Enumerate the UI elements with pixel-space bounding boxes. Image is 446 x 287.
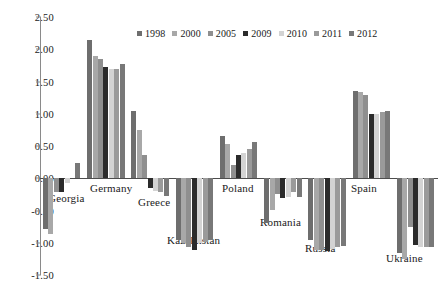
bar-Kazakhstan-2009 — [192, 178, 197, 250]
bar-Germany-2005 — [98, 59, 103, 178]
bar-Greece-2009 — [148, 178, 153, 188]
bar-Greece-2005 — [142, 155, 147, 178]
bar-Spain-2000 — [358, 92, 363, 178]
bar-Kazakhstan-1998 — [176, 178, 181, 240]
bar-Germany-2009 — [103, 67, 108, 178]
bar-Romania-2000 — [270, 178, 275, 210]
bar-Greece-1998 — [131, 111, 136, 179]
bar-Poland-2000 — [225, 144, 230, 178]
bar-Germany-2011 — [114, 69, 119, 179]
category-label-germany: Germany — [90, 182, 132, 194]
bar-Georgia-2009 — [59, 178, 64, 192]
bar-Germany-1998 — [87, 40, 92, 179]
bar-Russia-2009 — [325, 178, 330, 251]
bar-Ukraine-1998 — [397, 178, 402, 253]
bar-Poland-2012 — [252, 142, 257, 178]
bar-Ukraine-2011 — [424, 178, 429, 246]
bar-Russia-2000 — [314, 178, 319, 250]
bar-Spain-2005 — [363, 95, 368, 178]
bar-Romania-2011 — [291, 178, 296, 192]
category-label-greece: Greece — [138, 196, 170, 208]
bar-Romania-2010 — [286, 178, 291, 197]
bar-Poland-2011 — [247, 149, 252, 179]
bar-Greece-2011 — [158, 178, 163, 192]
bar-Poland-2009 — [236, 155, 241, 178]
bar-Poland-2005 — [231, 165, 236, 179]
bar-Poland-1998 — [220, 136, 225, 178]
bar-Georgia-2012 — [75, 163, 80, 178]
bar-Ukraine-2009 — [413, 178, 418, 245]
bar-Romania-2012 — [297, 178, 302, 197]
category-label-poland: Poland — [222, 182, 254, 194]
bar-Kazakhstan-2005 — [186, 178, 191, 247]
bar-Russia-2012 — [341, 178, 346, 246]
bar-Ukraine-2000 — [402, 178, 407, 259]
bar-Greece-2010 — [153, 178, 158, 191]
category-label-spain: Spain — [351, 182, 377, 194]
bar-Russia-2010 — [330, 178, 335, 249]
bar-Spain-2011 — [380, 112, 385, 178]
bar-Kazakhstan-2011 — [203, 178, 208, 242]
bar-Georgia-1998 — [43, 178, 48, 229]
bar-Ukraine-2010 — [418, 178, 423, 246]
bar-Russia-2005 — [319, 178, 324, 250]
bar-Spain-2012 — [385, 111, 390, 178]
bar-Ukraine-2012 — [429, 178, 434, 247]
bar-chart: 2.502.001.501.000.500.00-0.50-1.00-1.50 … — [0, 0, 446, 287]
bar-Kazakhstan-2010 — [197, 178, 202, 243]
bar-Germany-2010 — [109, 69, 114, 179]
bar-Germany-2012 — [120, 64, 125, 178]
bar-Georgia-2000 — [48, 178, 53, 234]
bar-Spain-2009 — [369, 114, 374, 178]
bar-Poland-2010 — [241, 153, 246, 178]
bar-Georgia-2010 — [65, 178, 70, 183]
bar-Romania-2009 — [280, 178, 285, 198]
bar-Russia-1998 — [308, 178, 313, 240]
bar-Georgia-2005 — [54, 178, 59, 192]
bar-Kazakhstan-2012 — [208, 178, 213, 240]
bar-Spain-2010 — [374, 114, 379, 179]
category-label-georgia: Georgia — [48, 192, 85, 204]
bar-Greece-2000 — [137, 130, 142, 178]
bar-Ukraine-2005 — [408, 178, 413, 227]
bar-Romania-2005 — [275, 178, 280, 194]
bar-Kazakhstan-2000 — [181, 178, 186, 243]
bar-Spain-1998 — [353, 91, 358, 179]
bar-Greece-2012 — [164, 178, 169, 195]
bar-Russia-2011 — [335, 178, 340, 246]
bar-Germany-2000 — [93, 56, 98, 179]
bar-Romania-1998 — [264, 178, 269, 223]
